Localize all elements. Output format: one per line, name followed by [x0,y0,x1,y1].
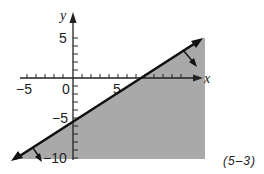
y-tick-label-neg10: −10 [43,150,67,166]
y-tick-label-neg5: −5 [52,110,68,126]
x-tick-label-neg5: −5 [16,81,32,97]
figure-caption: (5–3) [223,154,256,168]
x-tick-label-0: 0 [62,81,70,97]
y-tick-label-5: 5 [59,30,67,46]
inequality-graph: x y [0,0,264,174]
line-end-arrow-lower-icon [11,151,23,161]
y-axis-label: y [58,8,67,23]
x-axis-label: x [203,71,211,86]
y-axis-arrow-icon [70,12,77,23]
